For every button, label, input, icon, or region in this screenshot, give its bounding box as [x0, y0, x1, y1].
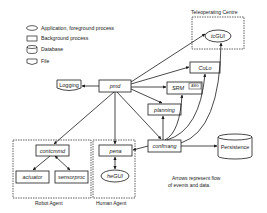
legend-label-file: File	[41, 58, 49, 64]
note-line-1: Arrows represent flow	[172, 175, 220, 181]
colo-label: CoLo	[190, 62, 220, 73]
legend-label-background: Background process	[41, 35, 88, 41]
logging-label: Logging	[57, 80, 81, 89]
arrow-pmd-tcgui	[131, 34, 205, 82]
persistence-label: Persistence	[218, 140, 252, 154]
pmd-label: pmd	[99, 80, 131, 92]
legend-cylinder-icon	[27, 46, 37, 54]
legend-label-application: Application, foreground process	[41, 25, 114, 31]
legend-shapes	[27, 26, 38, 65]
legend-ellipse-icon	[27, 26, 38, 31]
robot-agent-caption: Robot Agent	[35, 200, 63, 206]
teleoperating-centre-caption: Teleoperating Centre	[191, 9, 237, 15]
legend-rectangle-icon	[27, 36, 37, 41]
planning-label: planning	[148, 104, 181, 115]
arrow-pmd-confmang	[117, 92, 161, 139]
tcgui-label: tcGUI	[205, 30, 231, 42]
arrow-pmd-contcmmd	[54, 92, 114, 144]
arrow-contcmmd-actuator	[33, 156, 50, 170]
contcmmd-label: contcmmd	[36, 145, 69, 156]
arrow-pmd-planning	[131, 89, 162, 103]
note-line-2: of events and data.	[168, 182, 211, 188]
arrow-contcmmd-sensorproc	[55, 156, 70, 170]
actuator-label: actuator	[16, 171, 49, 183]
legend-label-database: Database	[41, 46, 63, 52]
arrow-confmang-srm	[165, 95, 182, 140]
srm-tag-label: AMG	[189, 83, 201, 89]
human-agent-caption: Human Agent	[96, 200, 126, 206]
pena-label: pena	[99, 145, 132, 156]
hegui-label: heGUI	[101, 170, 129, 182]
confmang-label: confmang	[148, 140, 181, 152]
legend-document-icon	[27, 59, 37, 65]
srm-label: SRM	[167, 82, 189, 94]
sensorproc-label: sensorproc	[55, 171, 88, 183]
